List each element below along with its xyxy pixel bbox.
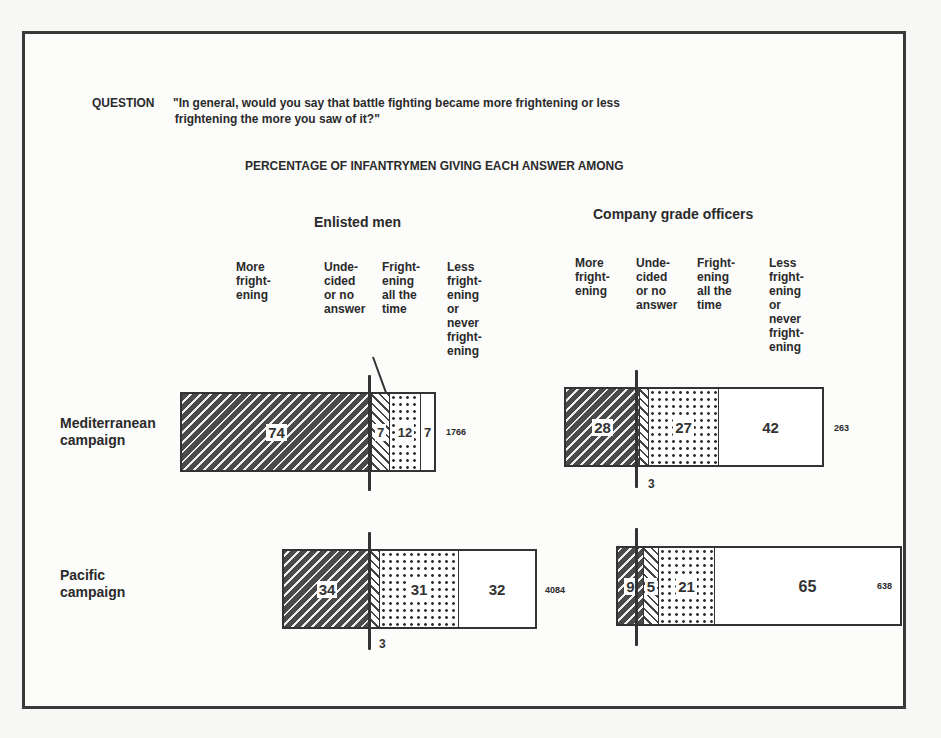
- em-col-undecided: Unde- cided or no answer: [324, 260, 365, 316]
- n-em-pacific: 4084: [545, 585, 565, 595]
- seg-less-frightening: 65: [714, 548, 900, 624]
- bar-em-mediterranean: 74 7 12 7: [180, 392, 436, 472]
- seg-undecided: 5: [643, 548, 658, 624]
- seg-always-frightening: 27: [648, 389, 718, 465]
- off-col-undecided: Unde- cided or no answer: [636, 256, 677, 312]
- seg-undecided: [639, 389, 648, 465]
- group-title-officers: Company grade officers: [593, 206, 753, 222]
- off-col-more-frightening: More fright- ening: [575, 256, 610, 298]
- seg-less-frightening: 7: [420, 394, 434, 470]
- value-label: 74: [266, 424, 287, 441]
- value-label: 12: [396, 424, 414, 441]
- em-col-less-frightening: Less fright- ening or never fright- enin…: [447, 260, 482, 358]
- n-em-mediterranean: 1766: [446, 427, 466, 437]
- value-label: 7: [375, 424, 386, 441]
- seg-less-frightening: 42: [718, 389, 822, 465]
- seg-undecided: [370, 551, 379, 627]
- axis-line-em-mediterranean: [368, 375, 371, 491]
- seg-more-frightening: 9: [618, 548, 643, 624]
- value-label: 32: [487, 581, 508, 598]
- row-label-mediterranean: Mediterranean campaign: [60, 415, 156, 449]
- question-line-1: "In general, would you say that battle f…: [173, 95, 620, 110]
- off-mediterranean-undecided-note: 3: [648, 477, 655, 491]
- axis-line-off-mediterranean: [635, 370, 638, 488]
- seg-more-frightening: 28: [566, 389, 639, 465]
- question-text: QUESTION"In general, would you say that …: [92, 95, 620, 127]
- bar-off-pacific: 9 5 21 65: [616, 546, 902, 626]
- seg-always-frightening: 21: [658, 548, 714, 624]
- value-label: 42: [760, 419, 781, 436]
- value-label: 65: [797, 578, 819, 595]
- row-label-pacific: Pacific campaign: [60, 567, 125, 601]
- value-label: 5: [645, 578, 657, 595]
- off-col-always-frightening: Fright- ening all the time: [697, 256, 735, 312]
- value-label: 21: [676, 578, 697, 595]
- seg-undecided: 7: [371, 394, 389, 470]
- off-col-less-frightening: Less fright- ening or never fright- enin…: [769, 256, 804, 354]
- em-col-more-frightening: More fright- ening: [236, 260, 271, 302]
- group-title-enlisted: Enlisted men: [314, 214, 401, 230]
- question-label: QUESTION: [92, 95, 173, 111]
- seg-more-frightening: 34: [284, 551, 370, 627]
- seg-less-frightening: 32: [458, 551, 535, 627]
- em-pacific-undecided-note: 3: [379, 637, 386, 651]
- chart-subtitle: PERCENTAGE OF INFANTRYMEN GIVING EACH AN…: [245, 158, 624, 173]
- n-off-pacific: 638: [877, 581, 892, 591]
- value-label: 34: [317, 581, 338, 598]
- value-label: 31: [409, 581, 430, 598]
- n-off-mediterranean: 263: [834, 423, 849, 433]
- value-label: 7: [422, 424, 433, 441]
- question-line-2: frightening the more you saw of it?": [92, 111, 620, 127]
- em-col-always-frightening: Fright- ening all the time: [382, 260, 420, 316]
- axis-line-em-pacific: [368, 532, 371, 650]
- bar-em-pacific: 34 31 32: [282, 549, 537, 629]
- axis-line-off-pacific: [635, 528, 638, 646]
- bar-off-mediterranean: 28 27 42: [564, 387, 824, 467]
- seg-more-frightening: 74: [182, 394, 371, 470]
- seg-always-frightening: 12: [389, 394, 420, 470]
- value-label: 27: [673, 419, 694, 436]
- value-label: 28: [592, 419, 613, 436]
- seg-always-frightening: 31: [379, 551, 458, 627]
